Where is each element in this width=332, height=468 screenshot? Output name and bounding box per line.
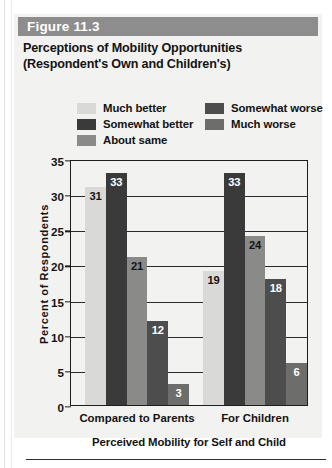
legend-label-somewhat-better: Somewhat better [103, 118, 193, 130]
legend-item-about-same: About same [77, 132, 193, 148]
legend-swatch-somewhat-worse [205, 103, 224, 114]
figure-title-line-2: (Respondent's Own and Children's) [23, 56, 315, 72]
x-axis-title: Perceived Mobility for Self and Child [70, 436, 308, 448]
y-tick-label: 25 [51, 225, 64, 238]
legend-swatch-somewhat-better [77, 119, 96, 130]
figure-number-band: Figure 11.3 [18, 17, 318, 36]
legend-label-much-worse: Much worse [231, 118, 296, 130]
y-tick-label: 0 [58, 401, 64, 414]
bar: 33 [106, 173, 127, 405]
plot-area: 05101520253035 313321123193324186 Compar… [70, 160, 308, 406]
legend-column-left: Much better Somewhat better About same [77, 100, 193, 148]
legend-item-much-worse: Much worse [205, 116, 323, 132]
page-bottom-rule [26, 459, 326, 460]
legend-swatch-much-worse [205, 119, 224, 130]
y-tick-label: 20 [51, 260, 64, 273]
bar-chart: Percent of Respondents 05101520253035 31… [14, 150, 322, 438]
legend-swatch-much-better [77, 103, 96, 114]
y-tick-mark [65, 406, 71, 407]
y-axis-title: Percent of Respondents [38, 194, 50, 354]
page-scan-edge-left [4, 0, 5, 468]
bar-value-label: 24 [245, 239, 266, 251]
bar: 31 [85, 187, 106, 405]
legend-item-somewhat-worse: Somewhat worse [205, 100, 323, 116]
bar-value-label: 18 [265, 282, 286, 294]
bar: 19 [203, 271, 224, 405]
legend-item-much-better: Much better [77, 100, 193, 116]
figure-number-label: Figure 11.3 [27, 19, 100, 34]
bar: 21 [127, 257, 148, 405]
figure-title: Perceptions of Mobility Opportunities (R… [23, 40, 315, 72]
y-tick-label: 30 [51, 190, 64, 203]
bar: 3 [168, 384, 189, 405]
x-tick-label: Compared to Parents [79, 412, 194, 424]
bar: 33 [224, 173, 245, 405]
bar-value-label: 6 [286, 366, 307, 378]
y-tick-label: 5 [58, 365, 64, 378]
x-tick-label: For Children [221, 412, 289, 424]
legend-label-somewhat-worse: Somewhat worse [231, 102, 323, 114]
bar-value-label: 33 [106, 176, 127, 188]
bar-value-label: 31 [85, 190, 106, 202]
chart-legend: Much better Somewhat better About same S… [77, 100, 325, 148]
legend-label-about-same: About same [103, 134, 167, 146]
bar: 18 [265, 279, 286, 406]
bar-value-label: 12 [147, 324, 168, 336]
bar-value-label: 3 [168, 387, 189, 399]
page-scan-edge-inner [11, 0, 12, 468]
bar: 6 [286, 363, 307, 405]
y-tick-label: 10 [51, 330, 64, 343]
legend-column-right: Somewhat worse Much worse [205, 100, 323, 132]
figure-title-line-1: Perceptions of Mobility Opportunities [23, 40, 315, 56]
legend-item-somewhat-better: Somewhat better [77, 116, 193, 132]
y-tick-label: 15 [51, 295, 64, 308]
bar-value-label: 21 [127, 260, 148, 272]
y-tick-label: 35 [51, 155, 64, 168]
figure-panel: Figure 11.3 Perceptions of Mobility Oppo… [14, 14, 322, 438]
bar: 12 [147, 321, 168, 405]
bar-value-label: 33 [224, 176, 245, 188]
legend-swatch-about-same [77, 135, 96, 146]
bar-value-label: 19 [203, 274, 224, 286]
bar-series-layer: 313321123193324186 [71, 161, 307, 405]
bar: 24 [245, 236, 266, 405]
legend-label-much-better: Much better [103, 102, 166, 114]
